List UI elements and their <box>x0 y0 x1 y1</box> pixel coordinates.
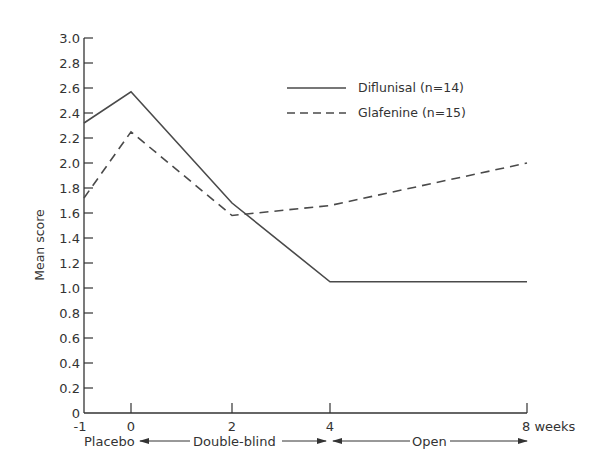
y-axis: 00.20.40.60.81.01.21.41.61.82.02.22.42.6… <box>59 31 93 421</box>
y-tick-label: 3.0 <box>59 31 80 46</box>
y-tick-label: 2.0 <box>59 156 80 171</box>
x-axis: -10248 weeks <box>74 403 576 434</box>
y-tick-label: 1.4 <box>59 231 80 246</box>
y-tick-label: 1.8 <box>59 181 80 196</box>
y-tick-label: 0.2 <box>59 381 80 396</box>
phase-label-open: Open <box>412 434 447 449</box>
y-tick-label: 0.8 <box>59 306 80 321</box>
y-tick-label: 1.6 <box>59 206 80 221</box>
y-tick-label: 2.2 <box>59 131 80 146</box>
x-tick-label: 0 <box>127 419 135 434</box>
legend: Diflunisal (n=14) Glafenine (n=15) <box>287 80 466 120</box>
y-tick-label: 0.6 <box>59 331 80 346</box>
series-line-glafenine <box>84 132 527 216</box>
x-tick-label: 4 <box>326 419 334 434</box>
y-tick-label: 2.6 <box>59 81 80 96</box>
phase-label-double-blind: Double-blind <box>193 434 276 449</box>
x-tick-label: -1 <box>74 419 87 434</box>
y-tick-label: 0.4 <box>59 356 80 371</box>
legend-item-diflunisal: Diflunisal (n=14) <box>287 80 464 95</box>
line-chart: 00.20.40.60.81.01.21.41.61.82.02.22.42.6… <box>0 0 608 470</box>
phase-annotations: Placebo Double-blind Open <box>84 434 527 449</box>
legend-label: Glafenine (n=15) <box>358 105 466 120</box>
y-tick-label: 2.8 <box>59 56 80 71</box>
y-tick-label: 2.4 <box>59 106 80 121</box>
x-tick-label: 2 <box>228 419 236 434</box>
phase-label-placebo: Placebo <box>84 434 135 449</box>
y-tick-label: 1.2 <box>59 256 80 271</box>
legend-item-glafenine: Glafenine (n=15) <box>287 105 466 120</box>
legend-label: Diflunisal (n=14) <box>358 80 464 95</box>
series-line-diflunisal <box>84 92 527 282</box>
y-tick-label: 1.0 <box>59 281 80 296</box>
y-axis-title: Mean score <box>32 209 47 281</box>
x-tick-label: 8 weeks <box>522 419 576 434</box>
